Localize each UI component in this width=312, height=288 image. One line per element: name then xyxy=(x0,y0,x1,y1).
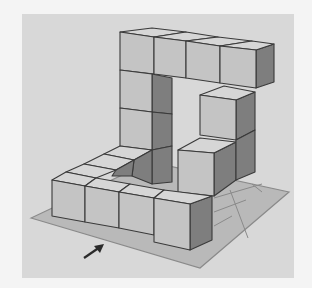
diagram-canvas xyxy=(0,0,312,288)
cube-front-face xyxy=(52,180,85,222)
left-pillar-cube-1 xyxy=(120,70,172,114)
cube-side-face xyxy=(152,146,172,184)
cube-side-face xyxy=(152,112,172,150)
cube-front-face xyxy=(154,198,190,250)
cube-front-face xyxy=(200,95,236,140)
top-row-cube-4 xyxy=(220,41,274,88)
front-row-cube-4 xyxy=(154,190,212,250)
cube-front-face xyxy=(120,108,152,150)
cube-front-face xyxy=(120,70,152,112)
cube-front-face xyxy=(119,192,154,235)
cube-structure-diagram xyxy=(0,0,312,288)
cube-front-face xyxy=(120,32,154,74)
cube-front-face xyxy=(154,37,186,78)
cube-front-face xyxy=(220,46,256,88)
cube-front-face xyxy=(85,186,119,228)
cube-side-face xyxy=(256,44,274,88)
left-pillar-cube-2 xyxy=(120,108,172,150)
cube-side-face xyxy=(190,196,212,250)
cube-front-face xyxy=(186,41,220,83)
cube-front-face xyxy=(178,150,214,196)
right-pillar-cube-1 xyxy=(200,86,255,140)
cube-side-face xyxy=(152,74,172,114)
